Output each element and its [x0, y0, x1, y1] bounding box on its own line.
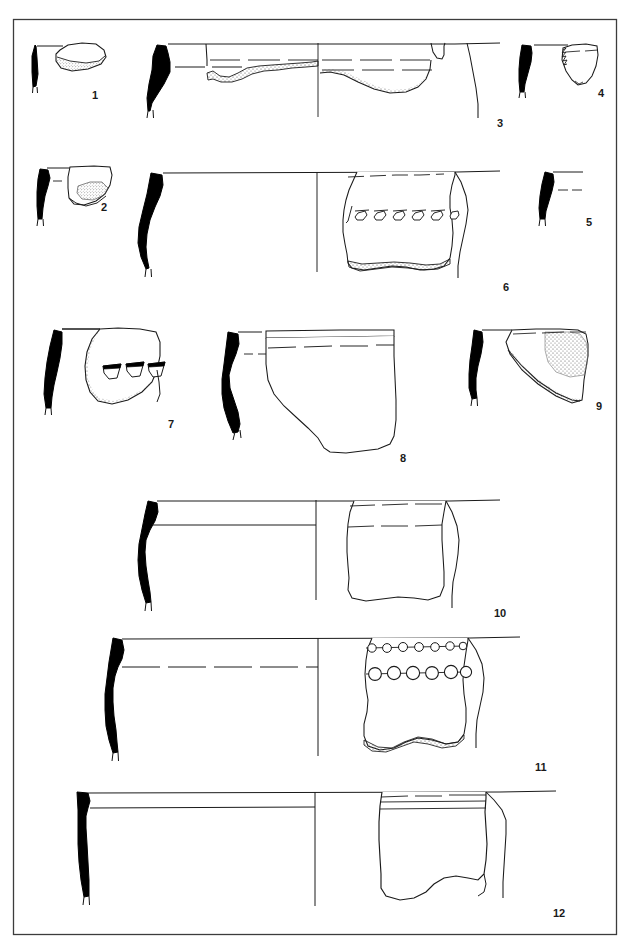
- figure-11-boss-1-7: [459, 642, 467, 650]
- figure-11-boss-2-2: [387, 666, 400, 679]
- figure-6-number: 6: [503, 281, 509, 293]
- figure-11-boss-2-5: [444, 665, 457, 678]
- figure-11-boss-1-1: [368, 644, 376, 652]
- figure-6-sherd-outline: [343, 172, 455, 270]
- figure-11-boss-1-4: [415, 643, 424, 652]
- figure-2-number: 2: [101, 201, 107, 213]
- figure-8-number: 8: [400, 452, 406, 464]
- figure-11-boss-1-2: [383, 644, 392, 653]
- figure-10-number: 10: [494, 607, 506, 619]
- figure-11-boss-2-4: [426, 667, 439, 680]
- figure-3-number: 3: [497, 117, 503, 129]
- figure-11-boss-2-1: [369, 668, 382, 681]
- figure-11-boss-1-3: [399, 643, 408, 652]
- figure-11-number: 11: [535, 761, 547, 773]
- figure-10-sherd-outline: [347, 501, 446, 601]
- figure-7-number: 7: [168, 418, 174, 430]
- plate-drawing: 1 3 4: [0, 0, 631, 951]
- figure-4-number: 4: [598, 87, 605, 99]
- figure-11-boss-1-5: [431, 643, 440, 652]
- figure-7-wedge-row: [103, 362, 165, 379]
- figure-11-boss-2-3: [406, 666, 419, 679]
- plate-caption: [0, 940, 631, 951]
- figure-11-boss-1-6: [446, 642, 454, 650]
- figure-9-number: 9: [596, 400, 602, 412]
- figure-11-sherd-outline: [364, 638, 468, 750]
- figure-11-boss-2-6: [460, 666, 471, 677]
- figure-12-number: 12: [553, 907, 565, 919]
- pottery-plate: 1 3 4: [0, 0, 631, 951]
- figure-1-number: 1: [92, 89, 98, 101]
- figure-5-number: 5: [586, 216, 592, 228]
